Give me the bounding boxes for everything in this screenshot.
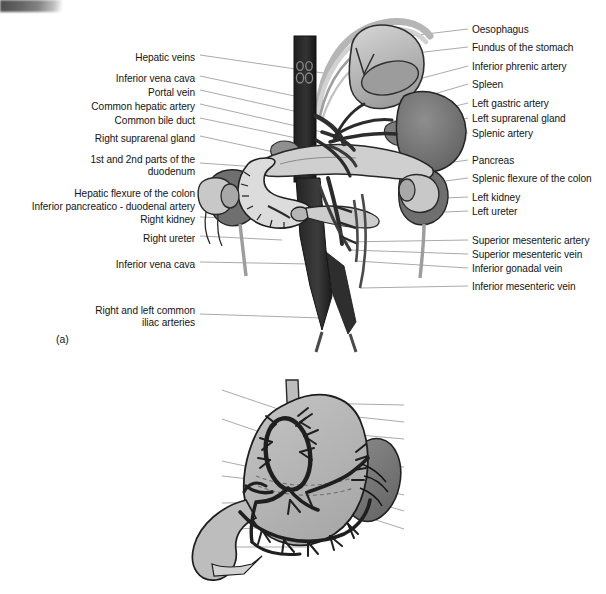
- label-hepatic-veins: Hepatic veins: [135, 52, 195, 64]
- label-right-ureter: Right ureter: [143, 233, 195, 245]
- label-duodenum-parts: 1st and 2nd parts of the duodenum: [45, 154, 195, 177]
- label-duodenum-parts-line2: duodenum: [45, 166, 195, 178]
- label-inferior-phrenic-artery: Inferior phrenic artery: [472, 61, 567, 73]
- label-oesophagus: Oesophagus: [472, 24, 529, 36]
- label-common-iliac-arteries: Right and left common iliac arteries: [35, 305, 195, 328]
- label-pancreas: Pancreas: [472, 155, 514, 167]
- label-common-hepatic-artery: Common hepatic artery: [91, 101, 195, 113]
- label-portal-vein: Portal vein: [148, 87, 195, 99]
- label-common-iliac-arteries-line2: iliac arteries: [35, 317, 195, 329]
- panel-b-coeliac-trunk: Left gastric artery Coeliac trunk Hepati…: [0, 360, 606, 594]
- label-splenic-artery: Splenic artery: [472, 128, 533, 140]
- label-fundus-of-the-stomach: Fundus of the stomach: [472, 42, 573, 54]
- label-left-suprarenal-gland: Left suprarenal gland: [472, 113, 566, 125]
- label-inferior-mesenteric-vein: Inferior mesenteric vein: [472, 281, 575, 293]
- label-inferior-gonadal-vein: Inferior gonadal vein: [472, 263, 562, 275]
- anatomy-figure: Hepatic veins Inferior vena cava Portal …: [0, 0, 606, 594]
- label-inferior-vena-cava-upper: Inferior vena cava: [116, 73, 195, 85]
- right-ureter-shape: [240, 224, 246, 276]
- inferior-mesenteric-vein-shape: [360, 194, 366, 288]
- panel-b-illustration: [0, 360, 606, 594]
- label-common-iliac-arteries-line1: Right and left common: [35, 305, 195, 317]
- label-spleen: Spleen: [472, 79, 503, 91]
- label-right-kidney: Right kidney: [140, 214, 195, 226]
- splenic-flexure-colon-shape: [399, 175, 439, 213]
- label-inferior-pancreaticoduodenal-artery: Inferior pancreatico - duodenal artery: [32, 201, 195, 213]
- label-left-kidney: Left kidney: [472, 192, 520, 204]
- label-hepatic-flexure-colon: Hepatic flexure of the colon: [74, 188, 195, 200]
- label-superior-mesenteric-artery: Superior mesenteric artery: [472, 235, 589, 247]
- panel-a-tag: (a): [56, 334, 69, 345]
- label-superior-mesenteric-vein: Superior mesenteric vein: [472, 249, 582, 261]
- label-inferior-vena-cava-lower: Inferior vena cava: [116, 259, 195, 271]
- label-left-ureter: Left ureter: [472, 206, 517, 218]
- label-splenic-flexure-colon: Splenic flexure of the colon: [472, 173, 592, 185]
- left-ureter-shape: [420, 224, 424, 278]
- label-right-suprarenal-gland: Right suprarenal gland: [95, 133, 195, 145]
- label-common-bile-duct: Common bile duct: [115, 115, 195, 127]
- label-duodenum-parts-line1: 1st and 2nd parts of the: [45, 154, 195, 166]
- label-left-gastric-artery: Left gastric artery: [472, 98, 549, 110]
- panel-a-abdominal-viscera: Hepatic veins Inferior vena cava Portal …: [0, 0, 606, 360]
